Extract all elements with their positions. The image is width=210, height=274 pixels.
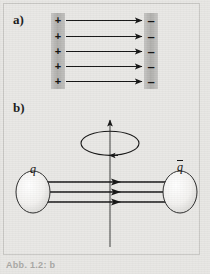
quark-label-left: q [24,162,42,177]
quark-blob-right [163,171,197,213]
quark-blob-left [16,171,50,213]
panel-b-graphics [0,0,210,274]
figure-container: a) [0,0,210,274]
rotation-ellipse-right-arc [110,131,139,155]
rotation-ellipse-left-arc [81,131,110,155]
figure-caption: Abb. 1.2: b [6,260,206,271]
quark-label-right: q [171,160,189,175]
quark-label-left-text: q [30,162,36,176]
flux-tube-strings [43,182,173,202]
antiquark-label-right-text: q [177,160,183,174]
